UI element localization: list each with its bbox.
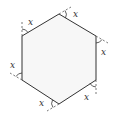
- hexagon-diagram: x x x x x x: [0, 0, 118, 125]
- angle-label-lower-right: x: [84, 92, 89, 102]
- angle-label-bottom: x: [39, 98, 44, 108]
- angle-label-top: x: [73, 9, 78, 19]
- angle-label-lower-left: x: [10, 60, 15, 70]
- angle-label-upper-right: x: [101, 47, 106, 57]
- angle-label-upper-left: x: [28, 17, 33, 27]
- hexagon-shape: [22, 14, 96, 104]
